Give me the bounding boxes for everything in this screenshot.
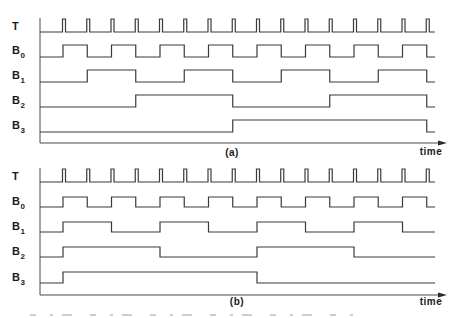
time-axis-label: time xyxy=(420,146,443,157)
clock-waveform xyxy=(40,169,435,182)
counter-timing-diagram: TB0B1B2B3(a)time TB0B1B2B3(b)time xyxy=(0,0,459,318)
bit-0-waveform xyxy=(40,197,435,207)
clock-label: T xyxy=(12,170,19,182)
bit-0-label: B0 xyxy=(12,44,25,60)
bit-3-waveform xyxy=(40,120,435,132)
bit-0-waveform xyxy=(40,45,435,57)
bit-3-label: B3 xyxy=(12,271,25,287)
bit-3-label: B3 xyxy=(12,119,25,135)
timing-panel-a: TB0B1B2B3(a)time xyxy=(12,18,447,158)
clock-label: T xyxy=(12,20,19,32)
bit-1-waveform xyxy=(40,70,435,82)
bit-1-label: B1 xyxy=(12,69,25,85)
bit-2-waveform xyxy=(40,95,435,107)
clock-waveform xyxy=(40,19,435,32)
bit-1-label: B1 xyxy=(12,220,25,236)
bit-1-waveform xyxy=(40,222,435,232)
bit-2-label: B2 xyxy=(12,245,25,261)
bit-2-waveform xyxy=(40,247,435,257)
time-axis-label: time xyxy=(420,296,443,307)
panel-b-caption: (b) xyxy=(230,296,244,307)
bit-3-waveform xyxy=(40,272,435,283)
panel-a-caption: (a) xyxy=(225,147,239,158)
bit-2-label: B2 xyxy=(12,94,25,110)
arrow-right-icon xyxy=(438,141,447,146)
timing-panel-b: TB0B1B2B3(b)time xyxy=(12,168,447,307)
bit-0-label: B0 xyxy=(12,195,25,211)
